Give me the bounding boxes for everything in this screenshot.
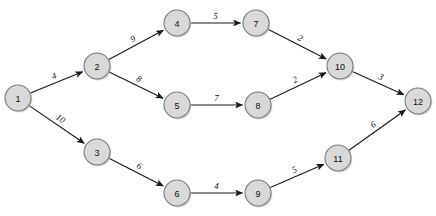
edge-10-to-12	[352, 72, 404, 95]
node-label-3: 3	[94, 148, 99, 158]
graph-node-1[interactable]: 1	[5, 85, 32, 113]
edge-3-to-6	[109, 158, 163, 186]
graph-node-9[interactable]: 9	[245, 180, 272, 208]
edge-1-to-3	[29, 106, 84, 144]
graph-node-2[interactable]: 2	[84, 53, 111, 81]
node-label-7: 7	[253, 19, 258, 29]
edge-weight-10-to-12: 3	[376, 71, 386, 83]
graph-node-11[interactable]: 11	[325, 145, 352, 173]
graph-node-7[interactable]: 7	[243, 10, 270, 38]
edge-weight-7-to-10: 2	[296, 32, 305, 43]
edge-weight-9-to-11: 5	[290, 164, 299, 175]
edge-9-to-11	[270, 164, 323, 187]
node-label-4: 4	[174, 19, 179, 29]
edge-weight-3-to-6: 6	[135, 160, 144, 171]
edge-weight-6-to-9: 4	[214, 181, 219, 191]
graph-node-6[interactable]: 6	[164, 180, 191, 208]
nodes-layer: 123456789101112	[5, 10, 432, 208]
edge-2-to-5	[109, 72, 163, 98]
node-label-2: 2	[94, 62, 99, 72]
edge-1-to-2	[31, 72, 83, 93]
node-label-6: 6	[174, 189, 179, 199]
edge-weight-1-to-2: 4	[50, 70, 58, 81]
edge-weight-2-to-5: 8	[135, 73, 144, 84]
edge-7-to-10	[268, 29, 326, 59]
node-label-9: 9	[255, 189, 260, 199]
edge-weight-4-to-7: 5	[213, 11, 218, 21]
graph-node-12[interactable]: 12	[405, 88, 432, 116]
edge-2-to-4	[109, 30, 163, 59]
edge-weight-11-to-12: 6	[368, 119, 378, 130]
edge-weight-2-to-4: 9	[128, 33, 137, 44]
graph-node-10[interactable]: 10	[327, 53, 354, 81]
graph-svg: 41098657422536 123456789101112	[0, 0, 436, 216]
graph-node-5[interactable]: 5	[164, 92, 191, 120]
node-label-5: 5	[174, 101, 179, 111]
edge-weight-8-to-10: 2	[291, 74, 300, 85]
graph-node-8[interactable]: 8	[245, 92, 272, 120]
edge-8-to-10	[270, 73, 326, 100]
node-label-8: 8	[255, 101, 260, 111]
graph-node-3[interactable]: 3	[84, 139, 111, 167]
edge-11-to-12	[349, 110, 405, 150]
node-label-10: 10	[335, 62, 345, 72]
graph-canvas: 41098657422536 123456789101112	[0, 0, 436, 216]
node-label-1: 1	[15, 94, 20, 104]
node-label-11: 11	[333, 154, 342, 164]
node-label-12: 12	[413, 97, 423, 107]
edge-weight-5-to-8: 7	[214, 93, 219, 103]
graph-node-4[interactable]: 4	[164, 10, 191, 38]
